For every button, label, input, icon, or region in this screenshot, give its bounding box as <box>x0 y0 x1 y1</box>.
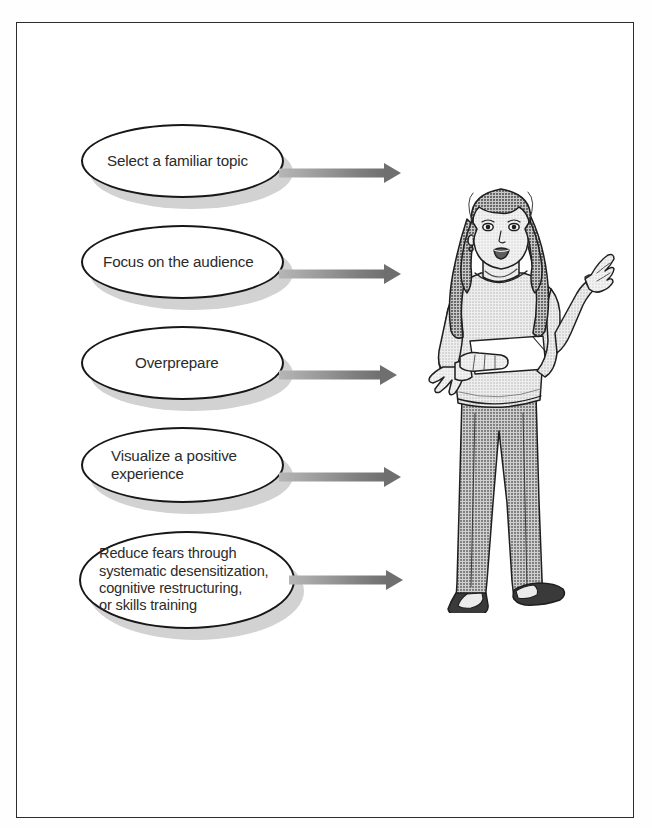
flow-arrow-1 <box>279 163 401 183</box>
arrow-head-icon <box>384 264 401 284</box>
page-border-frame: Select a familiar topic Focus on the aud… <box>16 22 634 818</box>
oval-shape: Select a familiar topic <box>81 124 284 198</box>
arrow-shaft <box>279 473 386 482</box>
oval-shape: Reduce fears through systematic desensit… <box>79 531 295 629</box>
flow-oval-2: Focus on the audience <box>81 225 284 299</box>
page-canvas: Select a familiar topic Focus on the aud… <box>0 0 652 828</box>
flow-arrow-4 <box>279 467 401 487</box>
arrow-head-icon <box>384 467 401 487</box>
oval-shape: Focus on the audience <box>81 225 284 299</box>
flow-oval-label-2: Focus on the audience <box>83 253 254 272</box>
arrow-shaft <box>289 576 388 585</box>
arrow-shaft <box>279 169 386 178</box>
flow-arrow-3 <box>279 365 397 385</box>
flow-oval-3: Overprepare <box>81 326 284 400</box>
flow-oval-label-5: Reduce fears through systematic desensit… <box>81 545 269 615</box>
arrow-head-icon <box>386 570 403 590</box>
flow-oval-label-4: Visualize a positive experience <box>83 447 237 484</box>
arrow-head-icon <box>380 365 397 385</box>
oval-shape: Visualize a positive experience <box>81 427 284 503</box>
arrow-head-icon <box>384 163 401 183</box>
flow-oval-5: Reduce fears through systematic desensit… <box>79 531 295 629</box>
arrow-shaft <box>279 371 382 380</box>
arrow-shaft <box>279 270 386 279</box>
speaker-illustration: Line-art halftone drawing of a young wom… <box>415 181 615 613</box>
flow-oval-label-1: Select a familiar topic <box>83 152 248 171</box>
oval-shape: Overprepare <box>81 326 284 400</box>
flow-oval-1: Select a familiar topic <box>81 124 284 198</box>
flow-arrow-2 <box>279 264 401 284</box>
flow-oval-4: Visualize a positive experience <box>81 427 284 503</box>
flow-oval-label-3: Overprepare <box>83 354 219 373</box>
flow-arrow-5 <box>289 570 403 590</box>
